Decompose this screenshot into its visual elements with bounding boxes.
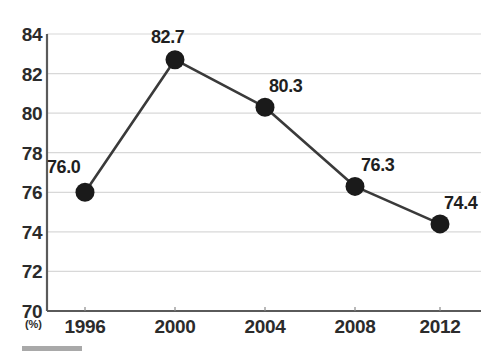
x-axis-tick-label: 2004 bbox=[225, 317, 305, 336]
y-axis-tick-label: 84 bbox=[8, 25, 42, 44]
data-markers bbox=[76, 50, 450, 233]
chart-screenshot: 8482807876747270 (%) 1996200020042008201… bbox=[0, 0, 492, 358]
y-axis-tick-label: 72 bbox=[8, 262, 42, 281]
data-marker[interactable] bbox=[346, 177, 365, 196]
data-line bbox=[85, 60, 440, 224]
y-axis-tick-label: 80 bbox=[8, 104, 42, 123]
data-marker[interactable] bbox=[256, 98, 275, 117]
data-marker[interactable] bbox=[166, 50, 185, 69]
y-axis-unit-label: (%) bbox=[8, 319, 42, 330]
data-marker[interactable] bbox=[431, 214, 450, 233]
y-axis-tick-label: 76 bbox=[8, 183, 42, 202]
data-marker[interactable] bbox=[76, 183, 95, 202]
data-point-label: 80.3 bbox=[269, 77, 302, 95]
data-point-label: 76.3 bbox=[361, 156, 394, 174]
x-axis-tick-label: 2012 bbox=[400, 317, 480, 336]
data-point-label: 82.7 bbox=[151, 28, 184, 46]
line-chart: 8482807876747270 (%) 1996200020042008201… bbox=[0, 0, 492, 358]
x-axis-tick-label: 1996 bbox=[45, 317, 125, 336]
page-rule-artifact bbox=[22, 346, 82, 351]
y-axis-tick-label: 78 bbox=[8, 143, 42, 162]
gridlines bbox=[47, 34, 481, 311]
data-point-label: 76.0 bbox=[47, 158, 80, 176]
y-axis-tick-labels: 8482807876747270 bbox=[8, 0, 42, 358]
y-axis-tick-label: 74 bbox=[8, 222, 42, 241]
x-axis-tick-label: 2008 bbox=[315, 317, 395, 336]
data-point-label: 74.4 bbox=[444, 194, 477, 212]
x-axis-tick-label: 2000 bbox=[135, 317, 215, 336]
chart-canvas bbox=[0, 0, 492, 358]
y-axis-tick-label: 82 bbox=[8, 64, 42, 83]
